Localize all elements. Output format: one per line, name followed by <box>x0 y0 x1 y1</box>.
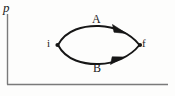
path-b-arrowhead-icon <box>111 57 125 65</box>
diagram-canvas <box>0 0 175 96</box>
axes-group <box>7 14 168 85</box>
state-label-i: i <box>47 38 50 49</box>
pv-diagram-figure: p i f A B <box>0 0 175 96</box>
path-a-arrowhead-icon <box>113 25 127 34</box>
y-axis-label: p <box>3 1 10 14</box>
path-a-group <box>58 25 140 46</box>
state-label-f: f <box>142 38 146 49</box>
path-label-b: B <box>93 62 101 74</box>
state-points-group <box>55 43 142 47</box>
state-point-i <box>55 43 59 47</box>
path-label-a: A <box>92 13 101 25</box>
path-a-curve <box>58 26 140 45</box>
